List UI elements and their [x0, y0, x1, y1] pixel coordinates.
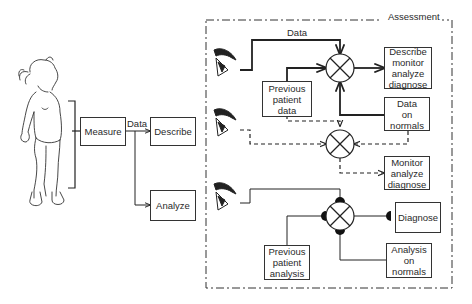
describe-box: Describe	[150, 117, 196, 146]
previous-patient-analysis-box: Previous patient analysis	[264, 245, 310, 280]
left-flow-connectors	[125, 131, 150, 205]
eye-icon	[214, 49, 236, 76]
analyze-box: Analyze	[150, 190, 196, 221]
comparator-circle-x-icon	[326, 202, 354, 230]
diagnose-label: Diagnose	[398, 212, 438, 223]
measure-bracket	[68, 101, 80, 188]
analysis-on-normals-box: Analysis on normals	[386, 243, 432, 278]
previous-patient-data-label: Previous patient data	[269, 83, 306, 116]
monitor-analyze-diagnose-box: Monitor analyze diagnose	[384, 156, 430, 190]
describe-monitor-analyze-diagnose-label: Describe monitor analyze diagnose	[389, 46, 428, 90]
analyze-label: Analyze	[156, 200, 190, 211]
previous-patient-analysis-label: Previous patient analysis	[269, 246, 306, 279]
measure-box: Measure	[80, 117, 126, 146]
left-data-label: Data	[127, 118, 147, 129]
bottom-path-connectors	[240, 189, 391, 260]
eye-icon	[214, 109, 236, 136]
data-on-normals-box: Data on normals	[384, 97, 430, 131]
describe-label: Describe	[154, 126, 192, 137]
diagnose-box: Diagnose	[395, 202, 441, 233]
comparator-circle-x-icon	[326, 54, 354, 82]
describe-monitor-analyze-diagnose-box: Describe monitor analyze diagnose	[384, 47, 432, 89]
middle-path-connectors	[240, 115, 408, 173]
assessment-title: Assessment	[386, 11, 442, 22]
monitor-analyze-diagnose-label: Monitor analyze diagnose	[388, 157, 427, 190]
previous-patient-data-box: Previous patient data	[262, 81, 312, 117]
eye-icon	[214, 183, 236, 210]
top-data-label: Data	[287, 27, 307, 38]
analysis-on-normals-label: Analysis on normals	[391, 244, 426, 277]
comparator-circle-x-icon	[326, 130, 354, 158]
measure-label: Measure	[85, 126, 122, 137]
data-on-normals-label: Data on normals	[390, 98, 424, 131]
child-figure-icon	[19, 57, 64, 206]
